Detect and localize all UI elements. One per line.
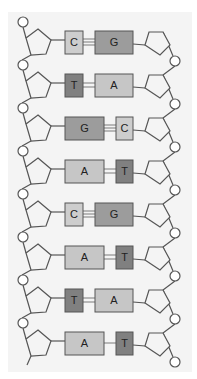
base-label-left: A: [81, 251, 89, 263]
phosphate-circle-icon: [18, 103, 28, 113]
base-label-right: A: [110, 294, 118, 306]
phosphate-circle-icon: [170, 228, 180, 238]
base-pair-row: AT: [51, 246, 145, 269]
phosphate-circle-icon: [170, 314, 180, 324]
phosphate-circle-icon: [18, 60, 28, 70]
base-pair-row: AT: [51, 332, 145, 355]
phosphate-circle-icon: [170, 142, 180, 152]
base-label-right: A: [110, 79, 118, 91]
dna-double-helix-diagram: CGTAGCATCGATTAAT: [0, 0, 197, 379]
base-pair-row: CG: [51, 31, 145, 54]
phosphate-circle-icon: [18, 189, 28, 199]
phosphate-circle-icon: [18, 232, 28, 242]
phosphate-circle-icon: [170, 357, 180, 367]
base-pair-row: TA: [51, 74, 145, 97]
base-label-left: A: [81, 165, 89, 177]
base-label-left: T: [71, 294, 78, 306]
phosphate-circle-icon: [18, 17, 28, 27]
diagram-panel: [8, 12, 192, 372]
base-label-right: T: [121, 165, 128, 177]
phosphate-circle-icon: [170, 99, 180, 109]
base-label-left: A: [81, 337, 89, 349]
base-label-right: G: [110, 36, 119, 48]
base-label-right: G: [110, 208, 119, 220]
base-pair-row: CG: [51, 203, 145, 226]
base-label-left: T: [71, 79, 78, 91]
phosphate-circle-icon: [18, 275, 28, 285]
phosphate-circle-icon: [170, 271, 180, 281]
base-pair-row: TA: [51, 289, 145, 312]
base-label-right: T: [121, 251, 128, 263]
base-label-left: G: [80, 122, 89, 134]
base-pair-row: GC: [51, 117, 145, 140]
phosphate-circle-icon: [170, 185, 180, 195]
base-label-right: C: [121, 122, 129, 134]
phosphate-circle-icon: [18, 146, 28, 156]
phosphate-circle-icon: [18, 318, 28, 328]
base-label-left: C: [70, 36, 78, 48]
base-label-left: C: [70, 208, 78, 220]
phosphate-circle-icon: [170, 56, 180, 66]
base-label-right: T: [121, 337, 128, 349]
base-pair-row: AT: [51, 160, 145, 183]
